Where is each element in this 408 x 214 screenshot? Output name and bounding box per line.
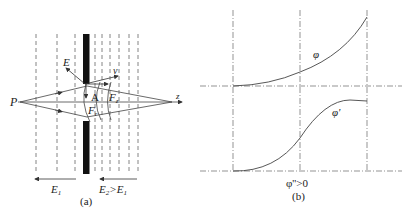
label-A: A [91, 91, 99, 103]
electrode-lower [83, 121, 90, 174]
label-v: v [113, 65, 118, 76]
grid-lines [200, 10, 402, 172]
diagram-canvas: P z E v A Fz Fr E1 E2>E1 (a) φ φ' φ''>0 … [0, 0, 408, 214]
caption-b: (b) [292, 190, 305, 203]
velocity-vector-v [85, 76, 118, 84]
label-phi-prime: φ' [332, 106, 341, 118]
panel-a: P z E v A Fz Fr E1 E2>E1 (a) [9, 34, 182, 208]
label-Fz: Fz [108, 91, 119, 105]
label-phi: φ [313, 48, 319, 60]
caption-a: (a) [80, 195, 93, 208]
label-E: E [62, 56, 70, 68]
label-condition: φ''>0 [286, 177, 309, 189]
label-P: P [9, 95, 18, 109]
label-z: z [175, 91, 180, 101]
panel-b: φ φ' φ''>0 (b) [200, 10, 402, 203]
label-Fr: Fr [87, 104, 98, 118]
field-vector-E [66, 68, 85, 84]
label-E1: E1 [50, 183, 61, 197]
label-E2-gt-E1: E2>E1 [98, 183, 127, 197]
electrode-upper [83, 34, 90, 84]
